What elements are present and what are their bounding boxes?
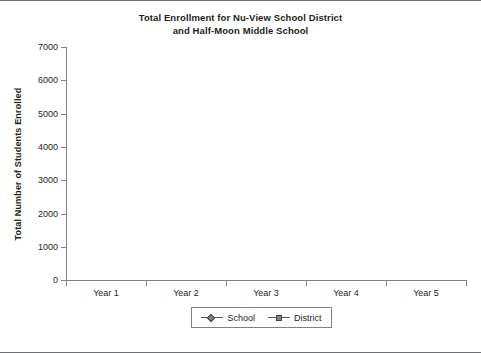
y-axis-tick-label: 1000: [12, 243, 58, 252]
y-axis-tick: [61, 247, 66, 248]
x-axis-tick: [66, 281, 67, 286]
x-axis-tick: [146, 281, 147, 286]
y-axis-tick-label: 4000: [12, 143, 58, 152]
x-axis-tick: [226, 281, 227, 286]
x-axis-tick: [386, 281, 387, 286]
x-axis-tick-label: Year 5: [386, 288, 466, 299]
y-axis-tick: [61, 47, 66, 48]
y-axis-tick: [61, 180, 66, 181]
y-axis-tick-label: 7000: [12, 43, 58, 52]
y-axis-tick-label: 3000: [12, 176, 58, 185]
x-axis-tick: [306, 281, 307, 286]
y-axis-tick-label: 2000: [12, 210, 58, 219]
x-axis-tick-label: Year 4: [306, 288, 386, 299]
y-axis-tick: [61, 80, 66, 81]
x-axis-tick: [466, 281, 467, 286]
y-axis-tick: [61, 147, 66, 148]
plot-area: [66, 47, 466, 280]
legend-item-school[interactable]: School: [201, 313, 255, 323]
x-axis-tick-label: Year 3: [226, 288, 306, 299]
chart-legend: School District: [191, 307, 332, 328]
y-axis-tick: [61, 214, 66, 215]
y-axis-tick-label: 5000: [12, 110, 58, 119]
chart-title-line-2: and Half-Moon Middle School: [0, 24, 481, 37]
diamond-marker-icon: [201, 313, 223, 323]
x-axis-tick-label: Year 2: [146, 288, 226, 299]
legend-label-school: School: [227, 313, 255, 323]
y-axis-tick-label: 6000: [12, 76, 58, 85]
square-marker-icon: [268, 313, 290, 323]
y-axis-line: [66, 47, 67, 281]
y-axis-tick-label: 0: [12, 276, 58, 285]
x-axis-tick-label: Year 1: [66, 288, 146, 299]
y-axis-tick: [61, 114, 66, 115]
chart-title-line-1: Total Enrollment for Nu-View School Dist…: [0, 11, 481, 24]
legend-item-district[interactable]: District: [268, 313, 322, 323]
legend-label-district: District: [294, 313, 322, 323]
chart-title: Total Enrollment for Nu-View School Dist…: [0, 11, 481, 37]
x-axis-line: [66, 280, 467, 281]
